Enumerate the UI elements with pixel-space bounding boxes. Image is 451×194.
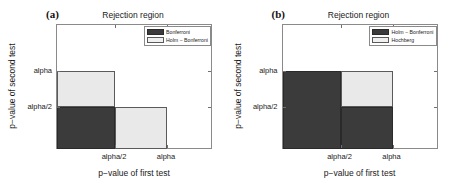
tick-y-left-2-a — [57, 71, 60, 72]
panel-label-a: (a) — [46, 8, 59, 20]
tick-y-left-1-b — [283, 107, 286, 108]
legend-a: Bonferroni Holm − Bonferroni — [144, 26, 211, 46]
tick-y-left-1-a — [57, 107, 60, 108]
plot-area-a: Bonferroni Holm − Bonferroni — [56, 24, 212, 149]
xtick-label-alpha-b: alpha — [382, 152, 400, 161]
legend-item-bonferroni-a: Bonferroni — [147, 29, 208, 36]
legend-swatch-holm-a — [147, 37, 164, 43]
region-holm-lower-right-b — [341, 107, 393, 149]
xaxis-title-b: p−value of first test — [324, 168, 396, 178]
legend-label-bonferroni-a: Bonferroni — [166, 29, 190, 35]
yaxis-title-b: p−value of second test — [233, 43, 243, 128]
legend-swatch-holm-b — [372, 29, 389, 35]
tick-y-left-2-b — [283, 71, 286, 72]
xtick-label-alpha-a: alpha — [157, 152, 175, 161]
panel-a: (a) Rejection region — [0, 0, 226, 194]
region-holm-lower-right-a — [115, 107, 167, 149]
tick-x-top-1-a — [115, 25, 116, 28]
panel-label-b: (b) — [272, 8, 285, 20]
panel-b: (b) Rejection region Holm − Bonferroni — [226, 0, 451, 194]
region-holm-upper-left-a — [57, 71, 115, 107]
legend-label-hochberg-b: Hochberg — [392, 37, 415, 43]
legend-b: Holm − Bonferroni Hochberg — [369, 26, 436, 46]
tick-y-right-2-b — [434, 71, 437, 72]
region-bonferroni-a — [57, 107, 115, 149]
panel-title-a: Rejection region — [102, 10, 163, 20]
tick-y-right-1-b — [434, 107, 437, 108]
plot-area-b: Holm − Bonferroni Hochberg — [282, 24, 438, 149]
tick-x-bottom-1-b — [341, 145, 342, 148]
legend-item-hochberg-b: Hochberg — [372, 37, 433, 44]
legend-label-holm-b: Holm − Bonferroni — [392, 29, 434, 35]
region-holm-left-column-b — [283, 71, 341, 149]
legend-swatch-hochberg-b — [372, 37, 389, 43]
panel-title-b: Rejection region — [328, 10, 389, 20]
legend-item-holm-a: Holm − Bonferroni — [147, 37, 208, 44]
tick-y-right-2-a — [208, 71, 211, 72]
tick-x-top-1-b — [341, 25, 342, 28]
tick-x-bottom-1-a — [115, 145, 116, 148]
yaxis-title-a: p−value of second test — [7, 43, 17, 128]
xaxis-title-a: p−value of first test — [98, 168, 170, 178]
region-hochberg-b — [341, 71, 393, 107]
legend-swatch-bonferroni-a — [147, 29, 164, 35]
xtick-label-alpha-half-b: alpha/2 — [327, 152, 352, 161]
legend-label-holm-a: Holm − Bonferroni — [166, 37, 208, 43]
tick-x-bottom-2-a — [167, 145, 168, 148]
legend-item-holm-b: Holm − Bonferroni — [372, 29, 433, 36]
xtick-label-alpha-half-a: alpha/2 — [102, 152, 127, 161]
tick-y-right-1-a — [208, 107, 211, 108]
figure-container: (a) Rejection region — [0, 0, 451, 194]
tick-x-bottom-2-b — [393, 145, 394, 148]
